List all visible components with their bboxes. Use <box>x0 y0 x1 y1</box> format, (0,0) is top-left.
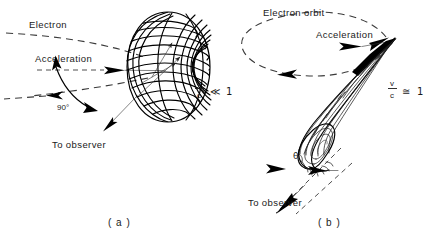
regime-value-a: 1 <box>226 86 232 97</box>
radiation-pattern-figure: Electron Acceleration 90° To observer <box>0 0 426 240</box>
observer-label-a: To observer <box>52 139 106 150</box>
angle-label-90: 90° <box>57 103 69 112</box>
acceleration-label-b: Acceleration <box>316 29 373 40</box>
regime-denominator-a: c <box>197 91 201 100</box>
regime-numerator-a: v <box>197 79 201 88</box>
panel-caption-b: ( b ) <box>318 217 341 228</box>
orbit-label: Electron orbit <box>263 7 325 18</box>
regime-relation-b: ≅ <box>402 86 410 97</box>
figure-root: Electron Acceleration 90° To observer <box>0 0 426 240</box>
regime-value-b: 1 <box>417 86 423 97</box>
regime-relation-a: ≪ <box>210 86 220 97</box>
electron-label: Electron <box>29 19 67 30</box>
observer-label-b: To observer <box>248 197 302 208</box>
regime-denominator-b: c <box>390 91 394 100</box>
regime-numerator-b: v <box>390 79 394 88</box>
panel-caption-a: ( a ) <box>108 217 131 228</box>
theta-label: θ <box>293 151 299 161</box>
acceleration-label-a: Acceleration <box>35 53 92 64</box>
